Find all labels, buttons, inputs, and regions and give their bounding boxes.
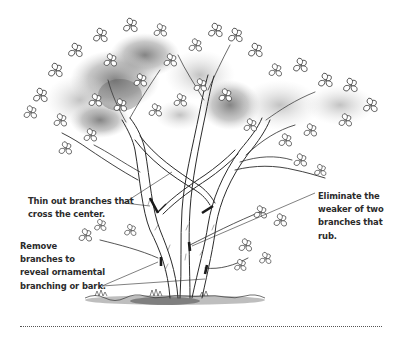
callout-line: branches to [20,253,106,266]
callout-remove: Remove branches to reveal ornamental bra… [20,240,106,293]
pruning-diagram: Thin out branches that cross the center.… [0,0,403,342]
callout-line: rub. [318,230,384,243]
callout-line: Remove [20,240,106,253]
callout-line: branches that [318,216,384,229]
callout-line: Thin out branches that [28,195,134,208]
dotted-divider [20,326,382,327]
ground [85,289,265,305]
callout-line: branching or bark. [20,280,106,293]
callout-line: reveal ornamental [20,266,106,279]
callout-line: Eliminate the [318,190,384,203]
cut-mark [205,265,207,274]
callout-line: weaker of two [318,203,384,216]
callout-line: cross the center. [28,208,134,221]
callout-thin-out: Thin out branches that cross the center. [28,195,134,221]
cut-mark [189,242,190,251]
callout-eliminate: Eliminate the weaker of two branches tha… [318,190,384,243]
cut-mark [158,204,166,212]
